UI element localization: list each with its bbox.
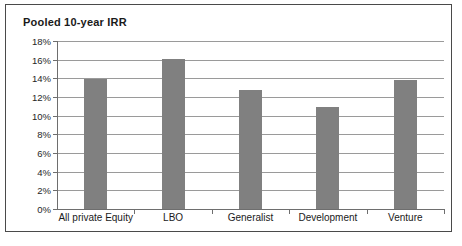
y-axis-tick-label: 6% <box>37 148 51 159</box>
y-axis-labels: 0%2%4%6%8%10%12%14%16%18% <box>17 41 51 209</box>
y-axis-tick-label: 16% <box>32 54 51 65</box>
x-axis-tick-label: Development <box>298 212 357 223</box>
gridline <box>57 41 444 42</box>
y-axis-tick-label: 18% <box>32 36 51 47</box>
chart-title: Pooled 10-year IRR <box>23 16 127 28</box>
y-axis-tick-label: 2% <box>37 185 51 196</box>
x-axis-tick <box>444 209 445 214</box>
x-axis-line <box>57 209 445 210</box>
x-axis-tick-label: Venture <box>388 212 422 223</box>
y-axis-tick-label: 8% <box>37 129 51 140</box>
x-axis-tick-label: Generalist <box>228 212 274 223</box>
bar[interactable] <box>84 79 107 209</box>
x-axis-tick <box>367 209 368 214</box>
y-axis-tick-label: 0% <box>37 204 51 215</box>
bar[interactable] <box>316 107 339 209</box>
x-axis-tick-label: All private Equity <box>58 212 132 223</box>
gridline <box>57 78 444 79</box>
plot-area <box>57 41 444 209</box>
chart-figure: Pooled 10-year IRR 0%2%4%6%8%10%12%14%16… <box>0 0 462 246</box>
bar[interactable] <box>394 80 417 209</box>
x-axis-tick <box>134 209 135 214</box>
y-axis-tick-label: 14% <box>32 73 51 84</box>
x-axis-tick <box>289 209 290 214</box>
y-axis-line <box>57 41 58 210</box>
y-axis-tick-label: 4% <box>37 166 51 177</box>
gridline <box>57 60 444 61</box>
x-axis-tick-label: LBO <box>163 212 183 223</box>
bar[interactable] <box>239 90 262 209</box>
x-axis-tick <box>212 209 213 214</box>
y-axis-tick-label: 10% <box>32 110 51 121</box>
y-axis-tick-label: 12% <box>32 92 51 103</box>
bar[interactable] <box>162 59 185 209</box>
